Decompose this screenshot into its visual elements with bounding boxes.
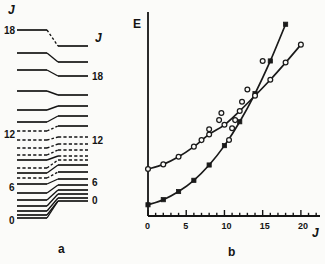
level-correlation-line (47, 150, 58, 155)
data-point-marker-circle (283, 60, 288, 65)
data-point-marker-square (176, 189, 180, 193)
data-point-marker-circle (222, 122, 227, 127)
level-correlation-line (47, 179, 58, 184)
data-point-marker-circle (207, 127, 212, 132)
data-point-marker-square (238, 120, 242, 124)
panel-a-right-level-label: 0 (92, 196, 98, 206)
panel-a-diagram (0, 0, 130, 235)
data-point-marker-circle (237, 109, 242, 114)
data-point-marker-circle (227, 138, 232, 143)
data-point-marker-square (222, 144, 226, 148)
data-point-marker-circle (219, 111, 224, 116)
level-correlation-line (47, 144, 58, 148)
data-point-marker-square (268, 59, 272, 63)
panel-b-ylabel: E (133, 18, 141, 30)
level-correlation-line (47, 126, 58, 131)
level-correlation-line (47, 172, 58, 178)
panel-a-right-level-label: 12 (92, 136, 103, 146)
panel-a-caption: a (58, 243, 65, 255)
data-point-marker-circle (268, 77, 273, 82)
data-point-marker-circle (245, 87, 250, 92)
data-point-marker-circle (176, 154, 181, 159)
panel-a-left-header: J (8, 4, 15, 16)
data-point-marker-circle (230, 126, 235, 131)
data-point-marker-square (284, 22, 288, 26)
data-point-marker-circle (191, 144, 196, 149)
data-point-marker-square (207, 163, 211, 167)
x-axis-tick-label: 10 (221, 222, 231, 231)
panel-b-chart (130, 8, 325, 243)
level-correlation-line (47, 116, 58, 122)
level-correlation-line (47, 70, 58, 76)
x-axis-tick-label: 5 (183, 222, 188, 231)
figure-root: J J 181260 181260 a E J 05101520 b (0, 0, 325, 264)
data-point-marker-square (161, 198, 165, 202)
data-point-marker-circle (199, 138, 204, 143)
data-point-marker-circle (240, 99, 245, 104)
x-axis-tick-label: 20 (298, 222, 308, 231)
panel-a-left-level-label: 12 (4, 130, 15, 140)
panel-b-caption: b (228, 246, 235, 258)
series-line-ground-band (148, 24, 286, 205)
data-point-marker-circle (217, 118, 222, 123)
series-line-excited-band (148, 45, 301, 169)
level-correlation-line (47, 30, 58, 46)
data-point-marker-circle (298, 42, 303, 47)
data-point-marker-circle (233, 118, 238, 123)
x-axis-tick-label: 0 (145, 222, 150, 231)
data-point-marker-circle (161, 162, 166, 167)
x-axis-tick-label: 15 (260, 222, 270, 231)
data-point-marker-square (192, 178, 196, 182)
level-correlation-line (47, 156, 58, 160)
level-correlation-line (47, 137, 58, 140)
data-point-marker-circle (253, 93, 258, 98)
panel-b-xlabel: J (312, 227, 319, 239)
level-correlation-line (47, 106, 58, 110)
level-correlation-line (47, 53, 58, 62)
panel-a-right-level-label: 6 (92, 178, 98, 188)
level-correlation-line (47, 91, 58, 95)
panel-a-right-header: J (95, 32, 102, 44)
panel-a-left-level-label: 18 (4, 26, 15, 36)
data-point-marker-square (146, 203, 150, 207)
panel-a-right-level-label: 18 (92, 72, 103, 82)
data-point-marker-circle (207, 132, 212, 137)
panel-a-left-level-label: 6 (9, 183, 15, 193)
data-point-marker-circle (146, 167, 151, 172)
data-point-marker-circle (260, 59, 265, 64)
panel-a-left-level-label: 0 (9, 216, 15, 226)
